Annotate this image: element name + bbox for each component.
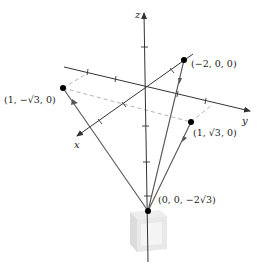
label-neg2: (−2, 0, 0)	[191, 58, 237, 69]
diagram-canvas: z y x (−2, 0, 0) (1, −√3, 0) (1, √3, 0) …	[0, 0, 264, 267]
point-bottom	[145, 208, 151, 214]
z-axis-label: z	[134, 9, 141, 20]
label-left: (1, −√3, 0)	[4, 94, 56, 105]
arrow-right-line-icon	[182, 136, 187, 142]
direction-arrows	[71, 78, 187, 142]
line-to-neg2-point	[148, 60, 184, 211]
points	[60, 57, 194, 214]
label-right: (1, √3, 0)	[193, 127, 237, 138]
cube-solid	[130, 210, 167, 252]
point-left	[60, 85, 66, 91]
y-axis	[64, 67, 250, 111]
label-bottom: (0, 0, −2√3)	[158, 194, 216, 205]
dashed-guides	[63, 73, 212, 122]
y-axis-label: y	[241, 115, 248, 126]
point-right	[188, 119, 194, 125]
connector-lines	[63, 60, 191, 211]
coordinate-diagram: z y x (−2, 0, 0) (1, −√3, 0) (1, √3, 0) …	[0, 0, 264, 267]
x-axis-label: x	[74, 139, 80, 150]
point-neg2	[181, 57, 187, 63]
